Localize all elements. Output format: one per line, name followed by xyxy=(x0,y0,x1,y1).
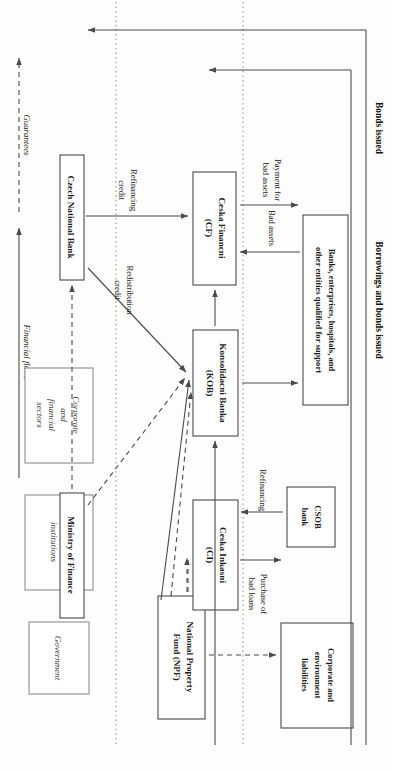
node-box-kob[interactable] xyxy=(193,330,238,436)
zone-label-corporate-l3: financial xyxy=(47,399,57,431)
edge-label-payment-bad-assets-l2: bad assets xyxy=(261,163,271,198)
node-label-banks-l1: Banks, enterprises, hospitals, and xyxy=(327,249,337,372)
zone-label-corporate-l4: sectors xyxy=(35,402,45,428)
node-label-cnb: Czech National Bank xyxy=(66,175,76,259)
edge-mof-to-kob xyxy=(88,378,185,505)
edge-label-redistribution-credit-l1: Redistribution xyxy=(125,265,135,315)
side-label-borrowings-bonds: Borrowings and bonds issued xyxy=(374,241,384,359)
zone-label-special-institutions-l2: institutions xyxy=(49,522,59,563)
node-box-cf[interactable] xyxy=(193,172,236,285)
node-label-corp-l3: liabilities xyxy=(300,658,310,692)
edge-label-bad-assets: Bad assets xyxy=(267,210,277,247)
node-label-mof: Ministry of Finance xyxy=(66,516,76,594)
node-label-csob-l1: CSOB xyxy=(313,505,323,529)
edge-label-payment-bad-assets-l1: Payment for xyxy=(273,159,283,201)
rotated-figure: Financial flows Guarantees Government Sp… xyxy=(0,0,393,771)
zone-label-government: Government xyxy=(53,636,63,681)
node-label-csob-l2: bank xyxy=(300,508,310,527)
node-label-corp-l1: Corporate and xyxy=(326,648,336,702)
node-label-ci-l1: Ceska Inkasni xyxy=(218,527,228,583)
node-label-kob-l1: Konsolidacni Banka xyxy=(218,343,228,423)
node-label-ci-l2: (CI) xyxy=(205,547,215,563)
edge-label-purchase-bad-loans-l1: Purchase of xyxy=(259,574,269,614)
node-box-csob[interactable] xyxy=(287,487,335,547)
edge-label-refinancing-credit-l2: credit xyxy=(117,180,127,200)
node-label-kob-l2: (KOB) xyxy=(205,370,215,397)
side-label-bonds-issued: Bonds issued xyxy=(374,102,384,155)
legend-guarantees-label: Guarantees xyxy=(22,114,32,156)
flowchart-svg: Financial flows Guarantees Government Sp… xyxy=(0,0,393,771)
node-label-corp-l2: environment xyxy=(313,652,323,699)
edge-npf-to-kob-solid xyxy=(161,380,189,600)
node-label-banks-l2: other entities qualified for support xyxy=(314,247,324,373)
node-label-npf-l1: National Property xyxy=(185,621,195,692)
edge-label-refinancing: Refinancing xyxy=(258,469,268,512)
edge-label-redistribution-credit-l2: credit xyxy=(113,280,123,300)
edge-redistribution-credit xyxy=(88,268,186,372)
diagram-canvas: Financial flows Guarantees Government Sp… xyxy=(0,0,393,771)
edge-label-purchase-bad-loans-l2: bad loans xyxy=(247,578,257,611)
node-label-cf-l1: Ceska Financni xyxy=(217,197,227,258)
node-label-npf-l2: Fund (NPF) xyxy=(172,633,182,680)
edge-label-refinancing-credit-l1: Refinancing xyxy=(129,169,139,212)
zone-label-corporate-l2: and xyxy=(59,408,69,422)
node-box-banks-enterprises[interactable] xyxy=(303,215,348,405)
node-label-cf-l2: (CF) xyxy=(204,219,214,237)
